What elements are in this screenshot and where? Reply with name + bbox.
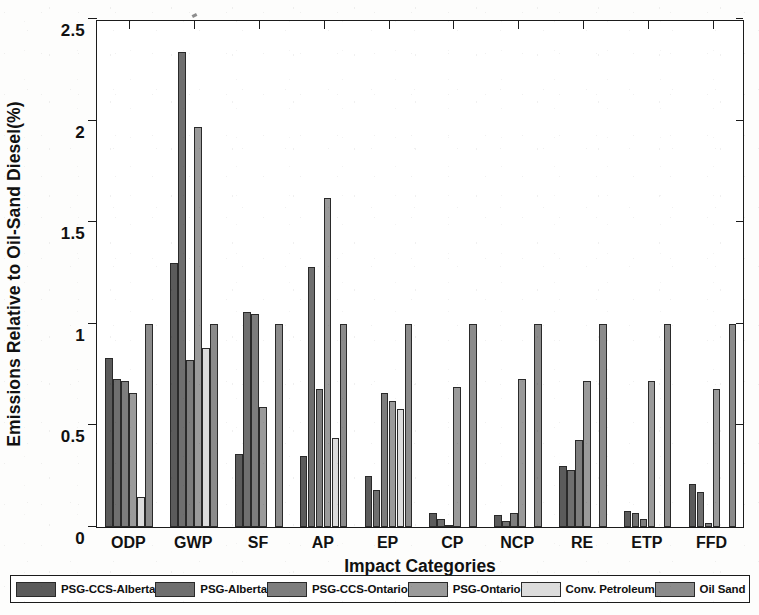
- legend-label: PSG-Alberta: [200, 583, 267, 595]
- bar-cp-s4: [453, 387, 461, 527]
- y-tick-mark: [88, 424, 97, 425]
- y-tick-mark: [88, 526, 97, 527]
- x-tick-label-odp: ODP: [111, 534, 146, 552]
- y-tick-mark: [88, 120, 97, 121]
- bar-re-s6: [599, 324, 607, 527]
- bar-odp-s3: [121, 381, 129, 527]
- bar-odp-s5: [137, 497, 145, 527]
- x-tick-label-ffd: FFD: [696, 534, 727, 552]
- bar-cp-s2: [437, 519, 445, 527]
- bar-ncp-s2: [502, 521, 510, 527]
- legend-label: Conv. Petroleum: [566, 583, 655, 595]
- bar-ncp-s1: [494, 515, 502, 527]
- chart-legend: PSG-CCS-AlbertaPSG-AlbertaPSG-CCS-Ontari…: [10, 575, 750, 603]
- legend-swatch-icon: [655, 582, 695, 597]
- legend-label: PSG-Ontario: [453, 583, 521, 595]
- legend-swatch-icon: [408, 582, 448, 597]
- bar-re-s2: [567, 470, 575, 527]
- legend-entry-1[interactable]: PSG-CCS-Alberta: [16, 582, 155, 597]
- bar-ep-s5: [397, 409, 405, 527]
- bar-ep-s4: [389, 401, 397, 527]
- legend-entry-2[interactable]: PSG-Alberta: [155, 582, 267, 597]
- bar-sf-s4: [259, 407, 267, 527]
- bar-gwp-s2: [178, 52, 186, 527]
- x-tick-mark-top: [648, 21, 649, 29]
- bar-gwp-s3: [186, 360, 194, 527]
- bar-cp-s3: [445, 525, 453, 527]
- bar-odp-s2: [113, 379, 121, 527]
- x-tick-label-sf: SF: [248, 534, 268, 552]
- legend-swatch-icon: [155, 582, 195, 597]
- bar-odp-s1: [105, 358, 113, 527]
- legend-entry-4[interactable]: PSG-Ontario: [408, 582, 521, 597]
- bar-ep-s2: [373, 490, 381, 527]
- y-tick-mark-right: [736, 424, 743, 425]
- x-tick-mark-top: [453, 21, 454, 29]
- x-tick-label-ap: AP: [312, 534, 334, 552]
- bar-gwp-s1: [170, 263, 178, 527]
- x-tick-mark-top: [518, 21, 519, 29]
- x-tick-mark-top: [389, 21, 390, 29]
- bar-cp-s1: [429, 513, 437, 527]
- bar-cp-s6: [469, 324, 477, 527]
- bar-ncp-s4: [518, 379, 526, 527]
- x-tick-label-ep: EP: [377, 534, 398, 552]
- legend-swatch-icon: [16, 582, 56, 597]
- x-tick-mark-top: [129, 21, 130, 29]
- bar-ap-s3: [316, 389, 324, 527]
- bar-ep-s6: [405, 324, 413, 527]
- bar-ncp-s6: [534, 324, 542, 527]
- bar-ep-s3: [381, 393, 389, 527]
- bar-ap-s4: [324, 198, 332, 527]
- bar-sf-s2: [243, 312, 251, 527]
- bar-re-s3: [575, 440, 583, 527]
- bar-ffd-s2: [697, 492, 705, 527]
- legend-entry-3[interactable]: PSG-CCS-Ontario: [267, 582, 408, 597]
- legend-entry-5[interactable]: Conv. Petroleum: [521, 582, 655, 597]
- bar-gwp-s6: [210, 324, 218, 527]
- x-tick-mark-top: [324, 21, 325, 29]
- bar-sf-s3: [251, 314, 259, 527]
- x-tick-label-etp: ETP: [631, 534, 662, 552]
- x-tick-mark-top: [259, 21, 260, 29]
- bar-gwp-s4: [194, 127, 202, 527]
- plot-area: 00.511.522.5: [96, 20, 744, 528]
- x-tick-label-cp: CP: [441, 534, 463, 552]
- bar-sf-s6: [275, 324, 283, 527]
- bar-gwp-s5: [202, 348, 210, 527]
- bar-re-s4: [583, 381, 591, 527]
- y-axis-title: Emissions Relative to Oil-Sand Diesel(%): [4, 101, 25, 446]
- x-tick-label-gwp: GWP: [174, 534, 212, 552]
- scan-artifact-mark: [192, 13, 198, 18]
- bar-etp-s4: [648, 381, 656, 527]
- x-tick-label-re: RE: [571, 534, 593, 552]
- bar-ap-s5: [332, 438, 340, 527]
- legend-label: Oil Sand: [700, 583, 746, 595]
- legend-swatch-icon: [267, 582, 307, 597]
- bar-etp-s2: [632, 513, 640, 527]
- bar-ffd-s6: [729, 324, 737, 527]
- y-tick-mark: [88, 221, 97, 222]
- x-axis-title: Impact Categories: [344, 556, 496, 577]
- bar-ffd-s4: [713, 389, 721, 527]
- bar-ap-s2: [308, 267, 316, 527]
- legend-label: PSG-CCS-Ontario: [312, 583, 408, 595]
- bar-etp-s6: [664, 324, 672, 527]
- bar-odp-s6: [145, 324, 153, 527]
- legend-entry-6[interactable]: Oil Sand: [655, 582, 746, 597]
- legend-swatch-icon: [521, 582, 561, 597]
- bar-sf-s1: [235, 454, 243, 527]
- bar-ap-s1: [300, 456, 308, 527]
- bar-ffd-s3: [705, 523, 713, 527]
- x-tick-label-ncp: NCP: [500, 534, 534, 552]
- bar-ncp-s3: [510, 513, 518, 527]
- bar-ep-s1: [365, 476, 373, 527]
- bar-chart-figure: Emissions Relative to Oil-Sand Diesel(%)…: [0, 0, 759, 615]
- y-tick-mark-right: [736, 18, 743, 19]
- y-tick-mark: [88, 323, 97, 324]
- bar-etp-s1: [624, 511, 632, 527]
- x-tick-mark-top: [583, 21, 584, 29]
- bar-re-s1: [559, 466, 567, 527]
- x-tick-mark-top: [194, 21, 195, 29]
- y-tick-mark-right: [736, 120, 743, 121]
